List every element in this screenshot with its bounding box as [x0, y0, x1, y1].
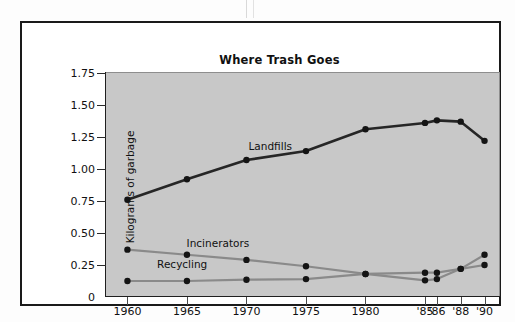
- x-tick-label: 1975: [292, 305, 320, 318]
- x-tick-label: '86: [428, 305, 445, 318]
- y-tick-label: 0: [49, 291, 95, 304]
- x-tick-mark: [365, 297, 366, 305]
- data-point: [243, 257, 249, 263]
- data-point: [481, 138, 487, 144]
- y-tick-mark: [97, 137, 106, 138]
- y-tick-mark: [97, 265, 106, 266]
- series-label-recycling: Recycling: [157, 258, 207, 270]
- data-point: [124, 197, 130, 203]
- data-point: [422, 269, 428, 275]
- x-tick-mark: [306, 297, 307, 305]
- data-point: [362, 126, 368, 132]
- x-tick-label: 1970: [232, 305, 260, 318]
- data-point: [243, 157, 249, 163]
- data-point: [458, 118, 464, 124]
- x-tick-label: '88: [452, 305, 469, 318]
- x-tick-mark: [246, 297, 247, 305]
- data-point: [422, 120, 428, 126]
- plot-area: Kilograms of garbage 1.751.501.251.000.7…: [106, 72, 500, 296]
- data-point: [184, 252, 190, 258]
- y-tick-label: 0.75: [49, 195, 95, 208]
- x-tick-mark: [437, 297, 438, 305]
- series-line-landfills: [127, 120, 484, 199]
- chart-title: Where Trash Goes: [22, 53, 515, 67]
- data-point: [184, 176, 190, 182]
- x-tick-mark: [485, 297, 486, 305]
- page-gutter-mark-secondary: [253, 0, 254, 18]
- data-point: [124, 278, 130, 284]
- data-point: [124, 246, 130, 252]
- data-point: [184, 278, 190, 284]
- y-tick-mark: [97, 73, 106, 74]
- data-point: [422, 277, 428, 283]
- x-tick-label: 1960: [113, 305, 141, 318]
- data-point: [458, 266, 464, 272]
- y-tick-label: 1.50: [49, 99, 95, 112]
- x-tick-label: '90: [476, 305, 493, 318]
- y-tick-mark: [97, 201, 106, 202]
- data-point: [243, 277, 249, 283]
- data-point: [481, 262, 487, 268]
- y-tick-label: 0.25: [49, 259, 95, 272]
- page-gutter-mark: [246, 0, 247, 18]
- x-tick-mark: [461, 297, 462, 305]
- y-tick-mark: [97, 105, 106, 106]
- y-tick-mark: [97, 169, 106, 170]
- x-tick-mark: [127, 297, 128, 305]
- y-tick-label: 1.25: [49, 131, 95, 144]
- data-point: [362, 271, 368, 277]
- x-tick-mark: [187, 297, 188, 305]
- y-tick-label: 0.50: [49, 227, 95, 240]
- x-tick-mark: [425, 297, 426, 305]
- data-point: [303, 276, 309, 282]
- y-tick-label: 1.75: [49, 67, 95, 80]
- series-label-landfills: Landfills: [249, 140, 293, 152]
- data-point: [303, 263, 309, 269]
- x-tick-label: 1965: [173, 305, 201, 318]
- y-tick-mark: [97, 233, 106, 234]
- data-point: [303, 148, 309, 154]
- series-label-incinerators: Incinerators: [187, 237, 250, 249]
- data-point: [481, 252, 487, 258]
- x-tick-label: 1980: [351, 305, 379, 318]
- data-point: [434, 276, 440, 282]
- figure-frame: Where Trash Goes Kilograms of garbage 1.…: [20, 21, 501, 306]
- y-tick-label: 1.00: [49, 163, 95, 176]
- data-point: [434, 117, 440, 123]
- data-point: [434, 269, 440, 275]
